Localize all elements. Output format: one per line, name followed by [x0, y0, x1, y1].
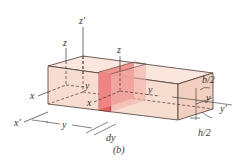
y-prime-label: y′ [219, 103, 227, 114]
h-half-label: h/2 [198, 127, 211, 138]
y-slice-label: y [147, 84, 153, 95]
x-slice-label: x [86, 97, 92, 108]
x-left-label: x [29, 90, 35, 101]
dy-label: dy [106, 132, 116, 143]
y-right-label: y [205, 92, 211, 103]
z-prime-label: z′ [78, 15, 86, 26]
beam-element-diagram: z′ z z x y x′ x y y y′ b/2 h/2 [0, 0, 238, 164]
figure-caption: (b) [113, 144, 125, 156]
y-dimension-label: y [61, 119, 67, 130]
y-dimension [32, 120, 116, 135]
y-left-inner-label: y [84, 80, 90, 91]
z-slice-label: z [116, 44, 121, 55]
z-left-label: z [62, 37, 67, 48]
b-half-label: b/2 [202, 74, 215, 85]
x-prime-label: x′ [13, 117, 21, 128]
